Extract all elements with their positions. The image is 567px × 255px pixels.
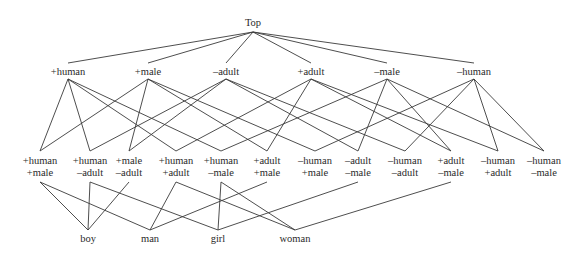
node-minus-human-adult: –human+adult (481, 155, 515, 179)
lattice-edge (474, 79, 544, 151)
lattice-edge (176, 182, 295, 230)
lattice-edge (150, 182, 267, 230)
node-line: +male (298, 167, 332, 179)
lattice-edge (226, 32, 253, 63)
node-line: +adult (254, 155, 281, 167)
lattice-edge (40, 182, 88, 230)
lattice-edge (148, 79, 267, 151)
node-line: +adult (159, 167, 194, 179)
lattice-edge (68, 79, 90, 151)
lattice-edge (90, 79, 226, 151)
lattice-edge (405, 79, 474, 151)
lattice-edge (88, 182, 90, 230)
word-boy: boy (80, 233, 96, 245)
node-line: –adult (73, 167, 108, 179)
node-line: –human (481, 155, 515, 167)
node-minus-adult-minus-male: –adult–male (345, 155, 371, 179)
node-minus-male: –male (374, 66, 400, 78)
lattice-edge (226, 79, 405, 151)
lattice-edge (148, 32, 253, 63)
node-line: +adult (438, 155, 465, 167)
node-minus-human-male: –human+male (298, 155, 332, 179)
node-line: –human (527, 155, 561, 167)
lattice-edge (311, 79, 451, 151)
node-line: +male (254, 167, 281, 179)
node-human-male: +human+male (23, 155, 58, 179)
node-line: –male (204, 167, 239, 179)
lattice-edge (68, 79, 176, 151)
node-line: +human (73, 155, 108, 167)
node-line: +human (23, 155, 58, 167)
lattice-edge (68, 79, 221, 151)
lattice-edge (40, 182, 150, 230)
lattice-edge (387, 79, 544, 151)
node-top: Top (245, 17, 261, 29)
lattice-edge (253, 32, 474, 63)
node-line: –male (438, 167, 465, 179)
node-line: –human (298, 155, 332, 167)
lattice-edges (0, 0, 567, 255)
node-line: +adult (481, 167, 515, 179)
node-minus-human-minus-male: –human–male (527, 155, 561, 179)
lattice-edge (68, 32, 253, 63)
lattice-edge (295, 182, 451, 230)
lattice-edge (474, 79, 498, 151)
node-male-minus-adult: +male–adult (116, 155, 142, 179)
node-minus-human: –human (457, 66, 491, 78)
word-woman: woman (280, 233, 311, 245)
node-line: +human (204, 155, 239, 167)
node-human-minus-male: +human–male (204, 155, 239, 179)
lattice-edge (387, 79, 451, 151)
node-line: –male (345, 167, 371, 179)
node-minus-adult: –adult (213, 66, 239, 78)
node-line: +male (23, 167, 58, 179)
node-line: –human (388, 155, 422, 167)
lattice-edge (218, 182, 358, 230)
node-human-adult: +human+adult (159, 155, 194, 179)
lattice-edge (40, 79, 68, 151)
lattice-edge (218, 182, 221, 230)
word-girl: girl (211, 233, 226, 245)
node-plus-human: +human (51, 66, 86, 78)
node-minus-human-minus-adult: –human–adult (388, 155, 422, 179)
node-line: +human (159, 155, 194, 167)
node-adult-male: +adult+male (254, 155, 281, 179)
feature-lattice-diagram: Top +human +male –adult +adult –male –hu… (0, 0, 567, 255)
word-man: man (141, 233, 159, 245)
lattice-edge (253, 32, 311, 63)
node-line: –adult (388, 167, 422, 179)
lattice-edge (253, 32, 387, 63)
node-line: +male (116, 155, 142, 167)
node-line: –adult (116, 167, 142, 179)
node-line: –adult (345, 155, 371, 167)
node-adult-minus-male: +adult–male (438, 155, 465, 179)
node-plus-male: +male (135, 66, 161, 78)
node-human-minus-adult: +human–adult (73, 155, 108, 179)
node-plus-adult: +adult (298, 66, 325, 78)
lattice-edge (221, 182, 295, 230)
node-line: –male (527, 167, 561, 179)
